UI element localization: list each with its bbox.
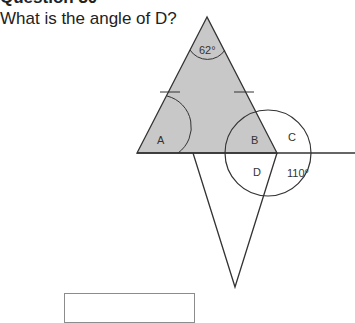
answer-input-box[interactable] [64,293,195,323]
isosceles-triangle [137,17,277,153]
apex-angle-label: 62° [199,44,216,56]
known-angle-label: 110° [287,167,309,179]
label-a: A [157,134,165,146]
label-d: D [253,166,261,178]
label-b: B [251,134,258,146]
lower-triangle [193,153,277,287]
label-c: C [288,131,296,143]
